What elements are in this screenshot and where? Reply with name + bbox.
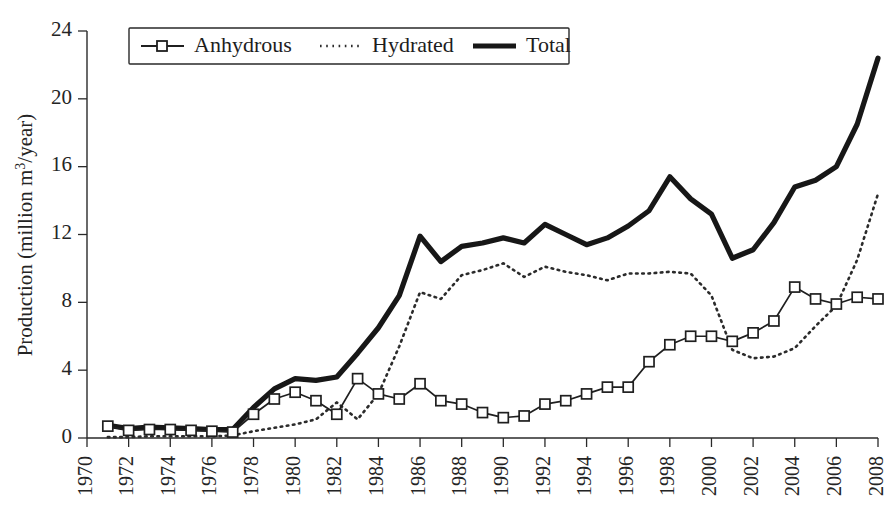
series-markers-anhydrous <box>103 282 883 437</box>
legend-label-hydrated: Hydrated <box>372 32 454 57</box>
y-axis-title: Production (million m3/year) <box>13 114 37 357</box>
x-tick-label: 1980 <box>282 456 304 496</box>
x-axis-ticks: 1970197219741976197819801982198419861988… <box>74 438 887 496</box>
data-point-marker <box>311 396 321 406</box>
legend-marker-square-icon <box>157 41 167 51</box>
series-line-hydrated <box>108 194 878 437</box>
data-point-marker <box>269 394 279 404</box>
data-point-marker <box>249 409 259 419</box>
data-point-marker <box>186 425 196 435</box>
data-point-marker <box>332 409 342 419</box>
x-tick-label: 1994 <box>573 456 595 496</box>
data-point-marker <box>165 425 175 435</box>
data-point-marker <box>519 411 529 421</box>
data-point-marker <box>769 316 779 326</box>
chart-figure: 04812162024 1970197219741976197819801982… <box>0 0 890 528</box>
x-tick-label: 1972 <box>115 456 137 496</box>
data-point-marker <box>436 396 446 406</box>
data-point-marker <box>498 413 508 423</box>
chart-legend: Anhydrous Hydrated Total <box>129 28 571 64</box>
y-tick-label: 8 <box>62 288 73 312</box>
data-point-marker <box>207 426 217 436</box>
y-tick-label: 12 <box>51 220 72 244</box>
data-point-marker <box>582 389 592 399</box>
x-tick-label: 1974 <box>157 456 179 496</box>
data-point-marker <box>394 394 404 404</box>
y-tick-label: 16 <box>51 152 72 176</box>
data-point-marker <box>228 427 238 437</box>
y-axis-ticks: 04812162024 <box>51 17 87 448</box>
data-point-marker <box>478 408 488 418</box>
data-point-marker <box>602 382 612 392</box>
y-tick-label: 20 <box>51 85 72 109</box>
x-tick-label: 1970 <box>74 456 96 496</box>
legend-label-anhydrous: Anhydrous <box>194 32 292 57</box>
x-tick-label: 1978 <box>240 456 262 496</box>
data-point-marker <box>644 357 654 367</box>
x-tick-label: 1984 <box>365 456 387 496</box>
data-point-marker <box>727 336 737 346</box>
line-chart-svg: 04812162024 1970197219741976197819801982… <box>0 0 890 528</box>
legend-label-total: Total <box>526 32 571 57</box>
x-tick-label: 1990 <box>490 456 512 496</box>
data-point-marker <box>790 282 800 292</box>
data-point-marker <box>540 399 550 409</box>
data-point-marker <box>353 374 363 384</box>
x-tick-label: 1986 <box>407 456 429 496</box>
data-point-marker <box>811 294 821 304</box>
y-tick-label: 0 <box>62 424 73 448</box>
data-point-marker <box>686 331 696 341</box>
x-tick-label: 1976 <box>198 456 220 496</box>
data-point-marker <box>415 379 425 389</box>
data-point-marker <box>561 396 571 406</box>
data-point-marker <box>124 425 134 435</box>
x-tick-label: 1996 <box>615 456 637 496</box>
data-point-marker <box>706 331 716 341</box>
x-tick-label: 2006 <box>823 456 845 496</box>
x-tick-label: 2004 <box>781 456 803 496</box>
x-tick-label: 1998 <box>656 456 678 496</box>
data-point-marker <box>373 389 383 399</box>
data-point-marker <box>852 292 862 302</box>
data-point-marker <box>144 425 154 435</box>
data-point-marker <box>831 299 841 309</box>
x-tick-label: 1992 <box>532 456 554 496</box>
data-point-marker <box>748 328 758 338</box>
data-point-marker <box>103 421 113 431</box>
data-point-marker <box>457 399 467 409</box>
data-point-marker <box>623 382 633 392</box>
x-tick-label: 2002 <box>740 456 762 496</box>
x-tick-label: 2008 <box>865 456 887 496</box>
y-tick-label: 4 <box>62 356 73 380</box>
x-tick-label: 2000 <box>698 456 720 496</box>
series-line-anhydrous <box>108 287 878 432</box>
x-tick-label: 1982 <box>323 456 345 496</box>
data-point-marker <box>873 294 883 304</box>
series-line-total <box>108 58 878 429</box>
y-tick-label: 24 <box>51 17 73 41</box>
data-point-marker <box>665 340 675 350</box>
data-point-marker <box>290 387 300 397</box>
x-tick-label: 1988 <box>448 456 470 496</box>
